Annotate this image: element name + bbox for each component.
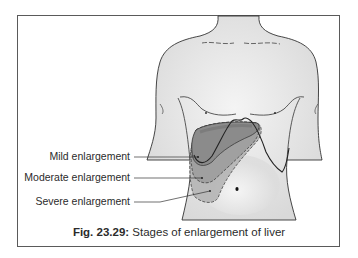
label-mild-enlargement: Mild enlargement <box>49 150 130 162</box>
umbilicus <box>235 187 238 191</box>
torso-liver-illustration <box>0 0 358 258</box>
caption-number: Fig. 23.29: <box>73 226 129 238</box>
caption-text: Stages of enlargement of liver <box>132 226 285 238</box>
label-severe-enlargement: Severe enlargement <box>35 195 130 207</box>
body-outline <box>147 16 322 220</box>
figure-caption: Fig. 23.29: Stages of enlargement of liv… <box>0 226 358 238</box>
label-moderate-enlargement: Moderate enlargement <box>24 171 130 183</box>
